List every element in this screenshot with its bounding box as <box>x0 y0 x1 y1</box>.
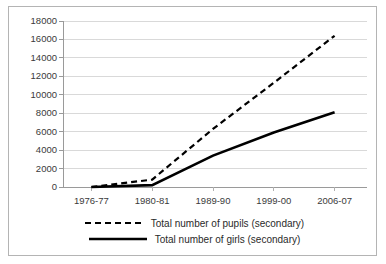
x-tick-label: 1989-90 <box>178 195 248 206</box>
solid-line-key-icon <box>87 233 149 245</box>
x-tick-label: 1976-77 <box>56 195 126 206</box>
legend-item-pupils: Total number of pupils (secondary) <box>9 215 378 231</box>
x-tick-label: 1999-00 <box>239 195 309 206</box>
legend-item-girls: Total number of girls (secondary) <box>9 231 378 247</box>
legend-label-girls: Total number of girls (secondary) <box>155 234 301 245</box>
chart-container: 1800016000140001200010000800060004000200… <box>8 6 377 256</box>
plot-area: 1800016000140001200010000800060004000200… <box>9 7 378 257</box>
dashed-line-key-icon <box>83 217 145 229</box>
x-tick-label: 2006-07 <box>300 195 370 206</box>
legend-label-pupils: Total number of pupils (secondary) <box>151 218 304 229</box>
chart-legend: Total number of pupils (secondary) Total… <box>9 215 378 247</box>
x-tick-label: 1980-81 <box>117 195 187 206</box>
